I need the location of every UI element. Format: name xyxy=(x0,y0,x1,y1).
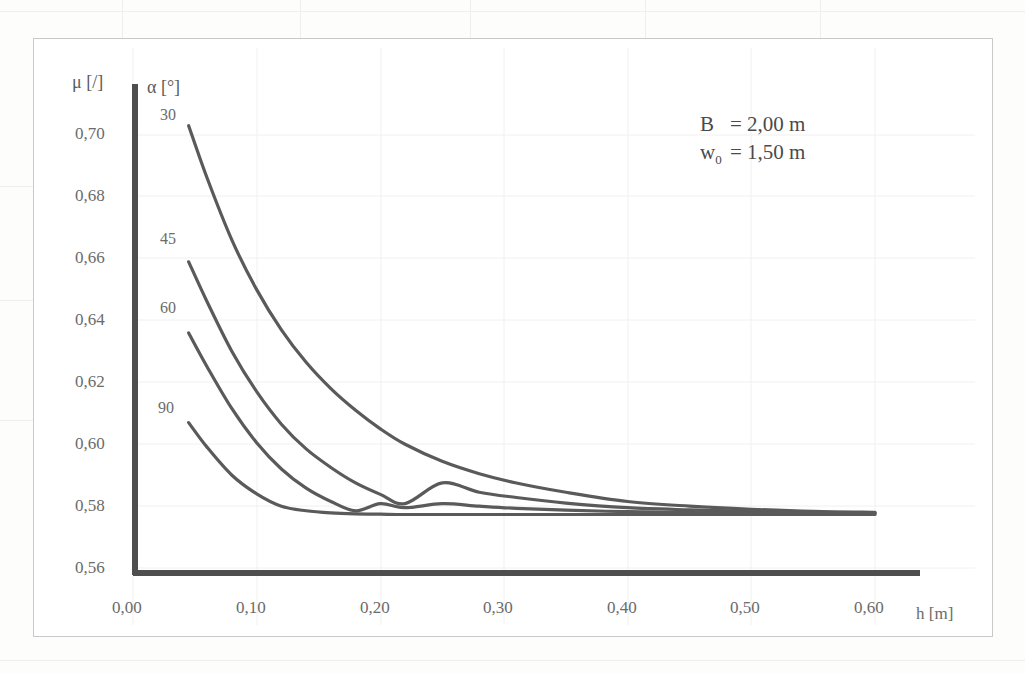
curve-label-45: 45 xyxy=(160,230,176,248)
y-tick-label: 0,58 xyxy=(75,496,105,516)
annotation-value-B: = 2,00 m xyxy=(730,112,805,136)
curve-30 xyxy=(189,126,875,513)
x-tick-label: 0,50 xyxy=(730,598,760,618)
annotation-line-B: B= 2,00 m xyxy=(700,110,805,138)
curve-label-60: 60 xyxy=(160,299,176,317)
x-tick-label: 0,20 xyxy=(360,598,390,618)
x-tick-label: 0,60 xyxy=(854,598,884,618)
parameter-annotation: B= 2,00 m w0= 1,50 m xyxy=(700,110,805,169)
y-tick-label: 0,68 xyxy=(75,186,105,206)
annotation-symbol-B: B xyxy=(700,110,730,138)
annotation-symbol-w0: w0 xyxy=(700,138,730,169)
y-tick-label: 0,60 xyxy=(75,434,105,454)
annotation-line-w0: w0= 1,50 m xyxy=(700,138,805,169)
x-tick-label: 0,00 xyxy=(112,598,142,618)
x-tick-label: 0,40 xyxy=(607,598,637,618)
curve-label-30: 30 xyxy=(160,106,176,124)
x-axis-title: h [m] xyxy=(916,604,953,624)
curve-45 xyxy=(189,262,875,513)
y-tick-label: 0,56 xyxy=(75,558,105,578)
y-axis-title: μ [/] xyxy=(72,72,103,93)
y-tick-label: 0,62 xyxy=(75,372,105,392)
grid-lines xyxy=(133,48,975,625)
x-tick-label: 0,10 xyxy=(236,598,266,618)
x-tick-label: 0,30 xyxy=(483,598,513,618)
curve-label-90: 90 xyxy=(158,399,174,417)
y-tick-label: 0,66 xyxy=(75,248,105,268)
annotation-value-w0: = 1,50 m xyxy=(730,140,805,164)
y-tick-label: 0,64 xyxy=(75,310,105,330)
y-tick-label: 0,70 xyxy=(75,124,105,144)
legend-title: α [°] xyxy=(147,77,180,98)
chart-plot xyxy=(0,0,1025,673)
